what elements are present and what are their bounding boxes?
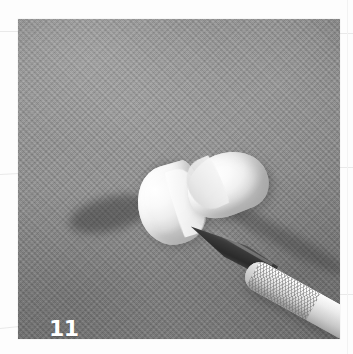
margin-rule-left-top [0, 31, 20, 32]
margin-rule-right-middle [340, 167, 353, 168]
margin-rule-right-edge [347, 0, 348, 354]
page-background: 11 [0, 0, 353, 354]
margin-rule-left-middle [0, 173, 19, 175]
step-number-label: 11 [49, 318, 79, 339]
margin-rule-right-top [340, 33, 353, 34]
margin-rule-right-lower [340, 294, 353, 295]
step-photograph: 11 [18, 19, 340, 339]
